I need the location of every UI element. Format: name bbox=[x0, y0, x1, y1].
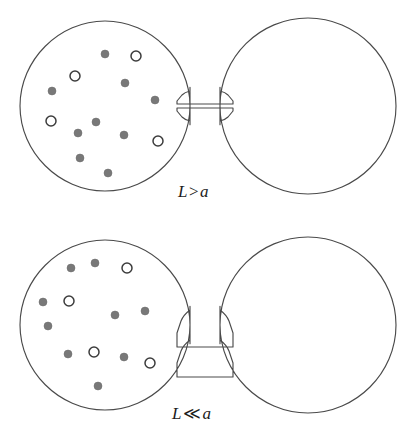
particle-open bbox=[64, 296, 74, 306]
panel-label-symbol: L bbox=[172, 404, 182, 423]
particle-filled bbox=[104, 169, 112, 177]
figure-root: L>a L≪a bbox=[0, 0, 415, 442]
particle-filled bbox=[64, 350, 72, 358]
diagram-panel-bottom: L≪a bbox=[0, 221, 415, 442]
vessel-outline-top bbox=[20, 18, 396, 194]
particle-filled bbox=[76, 154, 84, 162]
particle-filled bbox=[141, 307, 149, 315]
particle-filled bbox=[67, 264, 75, 272]
panel-label-bottom: L≪a bbox=[172, 403, 211, 424]
particle-filled bbox=[44, 322, 52, 330]
particle-filled bbox=[91, 259, 99, 267]
particle-open bbox=[122, 263, 132, 273]
particle-open bbox=[89, 347, 99, 357]
panel-label-symbol: L bbox=[178, 182, 188, 201]
particle-open bbox=[70, 71, 80, 81]
particle-open bbox=[131, 51, 141, 61]
particle-filled bbox=[101, 50, 109, 58]
panel-label-operand: a bbox=[200, 182, 209, 201]
vessel-outline-bottom bbox=[20, 237, 396, 413]
particle-filled bbox=[120, 131, 128, 139]
panel-label-top: L>a bbox=[178, 182, 209, 202]
panel-label-relation: ≪ bbox=[182, 404, 203, 423]
particle-filled bbox=[111, 311, 119, 319]
particle-filled bbox=[48, 87, 56, 95]
particle-filled bbox=[39, 298, 47, 306]
panel-label-relation: > bbox=[188, 182, 200, 201]
particle-filled bbox=[151, 96, 159, 104]
particle-filled bbox=[74, 129, 82, 137]
particle-open bbox=[153, 136, 163, 146]
particle-filled bbox=[120, 353, 128, 361]
particle-filled bbox=[94, 382, 102, 390]
particle-filled bbox=[92, 118, 100, 126]
particle-open bbox=[46, 116, 56, 126]
panel-label-operand: a bbox=[202, 404, 211, 423]
particle-filled bbox=[121, 79, 129, 87]
particle-open bbox=[145, 358, 155, 368]
diagram-panel-top: L>a bbox=[0, 0, 415, 221]
